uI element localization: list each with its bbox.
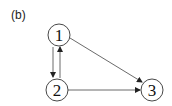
node-3: 3 [141,79,163,101]
node-2: 2 [46,79,68,101]
node-1-label: 1 [55,26,64,45]
edge-1-to-3 [70,38,142,82]
directed-graph: 1 2 3 [0,0,172,106]
node-3-label: 3 [148,81,157,100]
node-2-label: 2 [53,81,62,100]
node-1: 1 [48,24,70,46]
